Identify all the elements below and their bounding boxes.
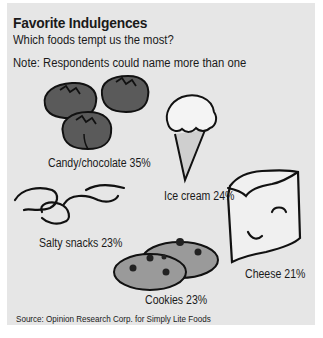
label-cheese: Cheese 21%	[245, 267, 305, 281]
label-ice-cream: Ice cream 24%	[164, 189, 234, 203]
label-cookies: Cookies 23%	[145, 293, 207, 307]
label-salty-snacks: Salty snacks 23%	[39, 236, 122, 250]
chips-icon	[15, 185, 124, 223]
label-candy: Candy/chocolate 35%	[48, 156, 151, 170]
ice-cream-icon	[167, 95, 216, 180]
cheese-icon	[228, 170, 300, 262]
source-note: Source: Opinion Research Corp. for Simpl…	[16, 313, 211, 324]
cookie-icon	[114, 238, 218, 290]
candy-icon	[45, 76, 149, 149]
